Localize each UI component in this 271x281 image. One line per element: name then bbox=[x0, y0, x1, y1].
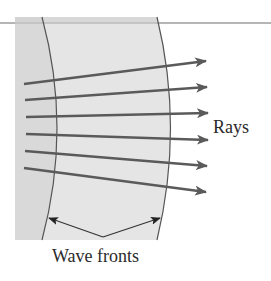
wave-fronts-rays-diagram: Rays Wave fronts bbox=[0, 0, 271, 281]
wave-fronts-label: Wave fronts bbox=[52, 247, 139, 265]
rays-label: Rays bbox=[213, 118, 249, 136]
inner-wavefront-region bbox=[42, 17, 171, 240]
horizon-overlay bbox=[15, 17, 157, 24]
